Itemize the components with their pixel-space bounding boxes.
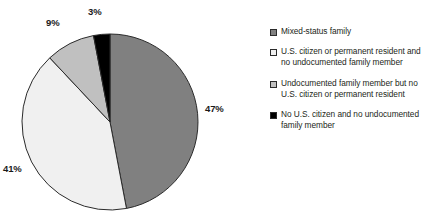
legend-item-citizen-no-undocumented: U.S. citizen or permanent resident and n… [270, 46, 428, 68]
legend-label-citizen-no-undocumented: U.S. citizen or permanent resident and n… [281, 46, 428, 68]
pie-slice-label-no-citizen-no-undocumented: 3% [88, 6, 102, 17]
legend-swatch-icon-citizen-no-undocumented [270, 49, 277, 56]
pie-plot-area: 47% 41% 9% 3% [0, 0, 240, 218]
pie-slice-label-citizen-no-undocumented: 41% [3, 163, 22, 174]
legend-label-no-citizen-no-undocumented: No U.S. citizen and no undocumented fami… [281, 109, 428, 131]
pie-svg [0, 0, 240, 218]
legend-swatch-icon-mixed-status-family [270, 29, 277, 36]
legend-swatch-icon-no-citizen-no-undocumented [270, 112, 277, 119]
legend-item-undocumented-no-citizen: Undocumented family member but no U.S. c… [270, 78, 428, 100]
chart-legend: Mixed-status family U.S. citizen or perm… [270, 26, 428, 140]
pie-chart-figure: 47% 41% 9% 3% Mixed-status family U.S. c… [0, 0, 431, 218]
pie-slices [22, 34, 198, 210]
legend-label-undocumented-no-citizen: Undocumented family member but no U.S. c… [281, 78, 428, 100]
legend-swatch-icon-undocumented-no-citizen [270, 81, 277, 88]
legend-label-mixed-status-family: Mixed-status family [281, 26, 351, 37]
legend-item-no-citizen-no-undocumented: No U.S. citizen and no undocumented fami… [270, 109, 428, 131]
legend-item-mixed-status-family: Mixed-status family [270, 26, 428, 37]
pie-slice-label-mixed-status-family: 47% [205, 103, 224, 114]
pie-slice [110, 34, 198, 208]
pie-slice-label-undocumented-no-citizen: 9% [46, 17, 60, 28]
